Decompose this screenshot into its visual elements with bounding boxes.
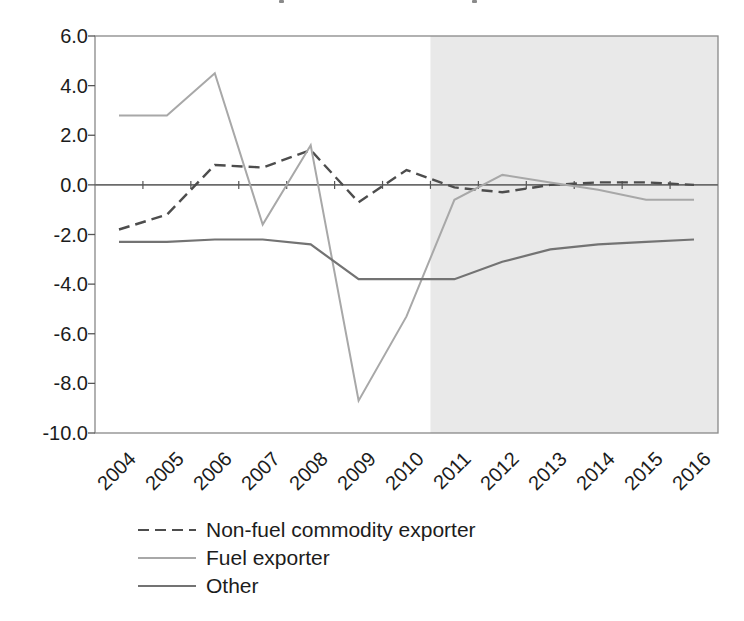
x-axis-label: 2009: [308, 448, 379, 519]
x-axis-label: 2007: [212, 448, 283, 519]
plot-area: [85, 30, 724, 439]
legend-item-fuel: Fuel exporter: [138, 544, 476, 572]
x-axis-label: 2014: [548, 448, 619, 519]
y-axis-label: 0.0: [0, 174, 88, 196]
y-axis-label: -8.0: [0, 372, 88, 394]
solid-line-swatch: [138, 585, 196, 587]
y-axis-label: 2.0: [0, 124, 88, 146]
x-axis-label: 2011: [404, 448, 475, 519]
solid-line-swatch: [138, 557, 196, 559]
forecast-shading: [430, 36, 718, 433]
x-axis-label: 2006: [164, 448, 235, 519]
legend-label: Fuel exporter: [206, 546, 330, 570]
chart-figure: 6.04.02.00.0-2.0-4.0-6.0-8.0-10.0 200420…: [0, 0, 744, 621]
legend-item-non-fuel: Non-fuel commodity exporter: [138, 516, 476, 544]
y-axis-label: 6.0: [0, 25, 88, 47]
dashed-line-swatch: [138, 529, 196, 532]
x-axis-label: 2016: [643, 448, 714, 519]
y-axis-label: -6.0: [0, 323, 88, 345]
x-axis-label: 2013: [500, 448, 571, 519]
legend-label: Other: [206, 574, 259, 598]
x-axis-label: 2005: [116, 448, 187, 519]
cropped-title-remnant: [279, 0, 284, 3]
x-axis-label: 2015: [596, 448, 667, 519]
legend-item-other: Other: [138, 572, 476, 600]
y-axis: 6.04.02.00.0-2.0-4.0-6.0-8.0-10.0: [0, 0, 88, 460]
legend-label: Non-fuel commodity exporter: [206, 518, 476, 542]
x-axis-label: 2012: [452, 448, 523, 519]
y-axis-label: -10.0: [0, 422, 88, 444]
y-axis-label: 4.0: [0, 75, 88, 97]
y-axis-label: -4.0: [0, 273, 88, 295]
y-axis-label: -2.0: [0, 224, 88, 246]
x-axis-label: 2010: [356, 448, 427, 519]
legend: Non-fuel commodity exporter Fuel exporte…: [138, 516, 476, 600]
cropped-title-remnant: [472, 0, 477, 3]
x-axis-label: 2008: [260, 448, 331, 519]
